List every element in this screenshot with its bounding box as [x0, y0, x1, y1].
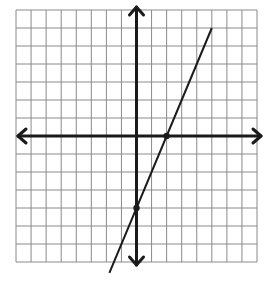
coordinate-graph [0, 0, 266, 287]
y-intercept-point [133, 205, 139, 211]
x-intercept-point [163, 133, 169, 139]
